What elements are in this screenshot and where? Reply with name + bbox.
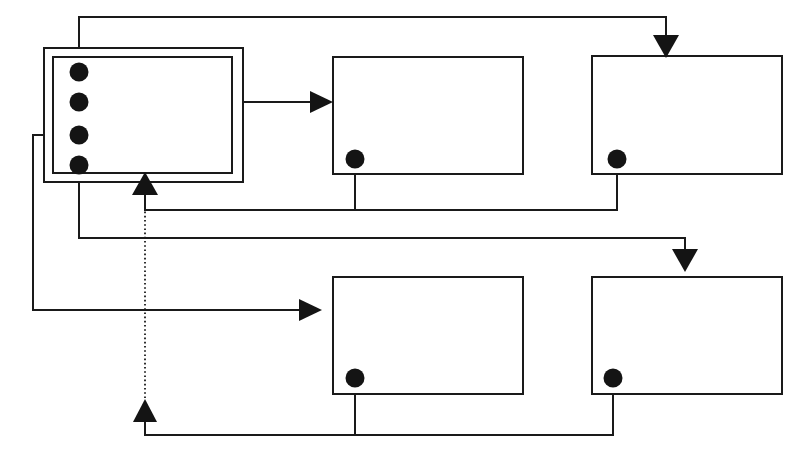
arrowhead-into-top-right-block [653,35,679,58]
diagram-svg [0,0,802,460]
node-layer [44,48,782,394]
controller-port-2-dot[interactable] [70,93,89,112]
top-middle-output-port-dot[interactable] [346,150,365,169]
controller-port-4-dot[interactable] [70,156,89,175]
bottom-right-output-port-dot[interactable] [604,369,623,388]
bottom-middle-output-port-dot[interactable] [346,369,365,388]
controller-port-1-dot[interactable] [70,63,89,82]
arrowhead-into-bottom-middle-block [299,299,322,321]
arrowhead-into-bottom-right-block [672,249,698,272]
diagram-canvas [0,0,802,460]
top-right-output-port-dot[interactable] [608,150,627,169]
arrowhead-into-top-middle-block [310,91,333,113]
arrowhead-into-controller-bottom-feedback [133,399,157,422]
controller-port-3-dot[interactable] [70,126,89,145]
